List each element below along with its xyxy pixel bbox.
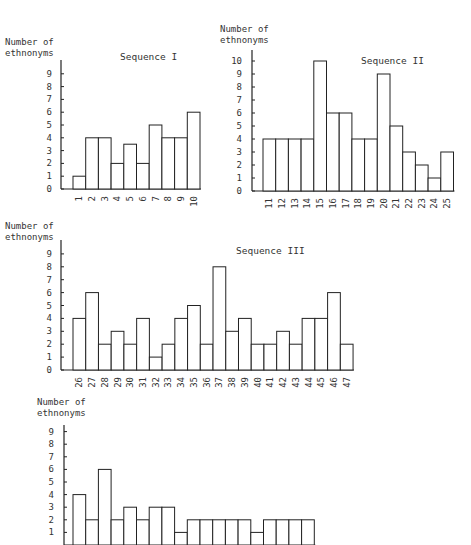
bar <box>162 507 175 545</box>
y-tick-label: 4 <box>47 313 52 323</box>
bar <box>328 293 341 370</box>
bar <box>124 507 137 545</box>
bar <box>264 520 277 545</box>
chart-title: Sequence I <box>120 51 177 62</box>
bar <box>315 318 328 370</box>
x-tick-label: 29 <box>113 377 123 388</box>
x-tick-label: 35 <box>189 377 199 388</box>
y-axis-label-line2: ethnonyms <box>37 408 86 418</box>
bar <box>73 318 86 370</box>
bar <box>73 495 86 545</box>
y-axis-label-line1: Number of <box>37 397 86 407</box>
bar <box>111 163 124 189</box>
y-axis-label-line2: ethnonyms <box>5 232 54 242</box>
x-tick-label: 26 <box>74 377 84 388</box>
y-tick-label: 4 <box>49 490 54 500</box>
y-tick-label: 6 <box>47 107 52 117</box>
bar <box>175 318 188 370</box>
y-tick-label: 2 <box>47 158 52 168</box>
bar <box>187 520 200 545</box>
y-tick-label: 8 <box>47 262 52 272</box>
bar <box>187 112 200 189</box>
x-tick-label: 34 <box>176 377 186 388</box>
bar <box>137 163 150 189</box>
x-tick-label: 13 <box>290 198 300 209</box>
y-axis-label-line1: Number of <box>5 37 54 47</box>
bar <box>200 520 213 545</box>
x-tick-label: 8 <box>163 196 173 201</box>
bar <box>441 152 454 191</box>
bar <box>162 138 175 189</box>
y-tick-label: 10 <box>231 56 242 66</box>
y-tick-label: 4 <box>237 134 242 144</box>
bar <box>213 267 226 370</box>
y-tick-label: 3 <box>47 146 52 156</box>
bar <box>98 469 111 545</box>
y-tick-label: 2 <box>47 339 52 349</box>
y-axis-label-line2: ethnonyms <box>5 48 54 58</box>
chart-sequence-1: Number of ethnonyms Sequence I 012345678… <box>5 37 201 207</box>
bar <box>213 520 226 545</box>
y-tick-label: 7 <box>47 94 52 104</box>
y-tick-label: 9 <box>47 69 52 79</box>
x-tick-label: 41 <box>265 377 275 388</box>
bar <box>111 331 124 370</box>
bar <box>188 306 201 371</box>
x-tick-label: 31 <box>138 377 148 388</box>
bar <box>314 61 327 191</box>
x-tick-label: 17 <box>341 198 351 209</box>
y-axis-label-line1: Number of <box>5 221 54 231</box>
x-tick-label: 25 <box>442 198 452 209</box>
x-tick-label: 5 <box>125 196 135 201</box>
x-tick-label: 21 <box>391 198 401 209</box>
y-tick-label: 3 <box>47 326 52 336</box>
x-tick-label: 22 <box>404 198 414 209</box>
y-tick-label: 1 <box>49 527 54 537</box>
y-tick-label: 0 <box>47 184 52 194</box>
bar <box>98 344 111 370</box>
figure-canvas: Number of ethnonyms Sequence I 012345678… <box>0 0 471 545</box>
x-tick-label: 27 <box>87 377 97 388</box>
bar <box>276 520 289 545</box>
bar <box>428 178 441 191</box>
bar <box>86 138 99 189</box>
x-tick-label: 15 <box>315 198 325 209</box>
bar <box>162 344 175 370</box>
bar <box>238 318 251 370</box>
x-tick-label: 43 <box>291 377 301 388</box>
bar <box>365 139 378 191</box>
bar <box>137 318 150 370</box>
y-tick-label: 0 <box>47 365 52 375</box>
y-tick-label: 6 <box>49 464 54 474</box>
bar <box>301 139 314 191</box>
y-axis-label-line2: ethnonyms <box>220 35 269 45</box>
bar <box>251 344 264 370</box>
y-tick-label: 5 <box>237 121 242 131</box>
y-tick-label: 7 <box>237 95 242 105</box>
bar <box>111 520 124 545</box>
y-tick-label: 0 <box>237 186 242 196</box>
bar <box>149 507 162 545</box>
bar <box>403 152 416 191</box>
y-tick-label: 1 <box>237 173 242 183</box>
chart-title: Sequence III <box>236 245 305 256</box>
x-tick-label: 28 <box>100 377 110 388</box>
bar <box>86 520 99 545</box>
y-tick-label: 2 <box>237 160 242 170</box>
bar <box>73 176 86 189</box>
x-tick-label: 10 <box>189 196 199 207</box>
x-tick-label: 46 <box>329 377 339 388</box>
x-tick-label: 14 <box>302 198 312 209</box>
chart-sequence-3: Number of ethnonyms Sequence III 0123456… <box>5 221 354 388</box>
bar <box>124 344 137 370</box>
bar <box>289 344 302 370</box>
bar <box>352 139 365 191</box>
x-tick-label: 36 <box>202 377 212 388</box>
y-tick-label: 5 <box>47 120 52 130</box>
bar <box>264 344 277 370</box>
x-tick-label: 32 <box>151 377 161 388</box>
y-tick-label: 5 <box>47 301 52 311</box>
bar <box>251 532 264 545</box>
bar <box>277 331 290 370</box>
y-tick-label: 1 <box>47 352 52 362</box>
